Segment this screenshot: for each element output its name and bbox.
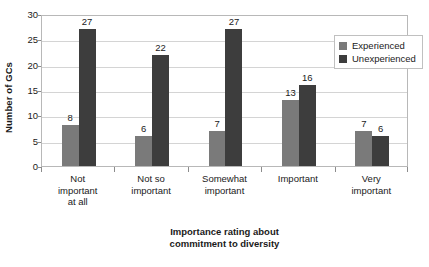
x-axis-tick-label: Important — [261, 173, 334, 185]
x-axis-tick-mark — [114, 167, 115, 172]
bar[interactable]: 7 — [209, 131, 226, 166]
y-axis-tick-label: 25 — [16, 35, 38, 45]
legend-swatch-icon — [339, 42, 347, 50]
bar[interactable]: 13 — [282, 100, 299, 166]
x-axis-tick-label-line: important — [41, 185, 114, 197]
bar-value-label: 13 — [285, 88, 296, 98]
y-axis-tick-mark — [37, 116, 41, 117]
legend-label: Unexperienced — [352, 54, 416, 64]
chart-legend: ExperiencedUnexperienced — [334, 35, 423, 69]
x-axis-tick-label-line: important — [114, 185, 187, 197]
y-axis-title: Number of GCs — [0, 44, 16, 150]
bar[interactable]: 27 — [225, 29, 242, 166]
bar[interactable]: 27 — [79, 29, 96, 166]
y-axis-tick-label: 30 — [16, 10, 38, 20]
bar-chart-figure: Number of GCs 051015202530 8276227271316… — [0, 0, 429, 267]
bar-group: 622 — [135, 16, 169, 166]
y-axis-tick-label: 20 — [16, 61, 38, 71]
bar-value-label: 27 — [82, 17, 93, 27]
bar-value-label: 6 — [141, 124, 146, 134]
y-axis-tick-label: 5 — [16, 137, 38, 147]
bar-value-label: 7 — [361, 119, 366, 129]
bar-group: 727 — [209, 16, 243, 166]
bar-value-label: 6 — [378, 124, 383, 134]
x-axis-tick-label-line: important — [335, 185, 408, 197]
x-axis-tick-label: Somewhatimportant — [188, 173, 261, 196]
legend-label: Experienced — [352, 41, 405, 51]
legend-item-experienced[interactable]: Experienced — [339, 39, 416, 52]
legend-item-unexperienced[interactable]: Unexperienced — [339, 52, 416, 65]
y-axis-tick-mark — [37, 66, 41, 67]
x-axis-tick-mark — [188, 167, 189, 172]
bar-value-label: 27 — [229, 17, 240, 27]
x-axis-title-line: commitment to diversity — [41, 238, 408, 250]
y-axis-title-text: Number of GCs — [3, 62, 14, 133]
bar[interactable]: 22 — [152, 55, 169, 166]
plot-area: 827622727131676 ExperiencedUnexperienced — [41, 15, 408, 167]
bar-value-label: 22 — [155, 43, 166, 53]
x-axis-tick-mark — [335, 167, 336, 172]
x-axis-tick-label-line: at all — [41, 196, 114, 208]
bar[interactable]: 16 — [299, 85, 316, 166]
bar[interactable]: 8 — [62, 125, 79, 166]
legend-swatch-icon — [339, 55, 347, 63]
y-axis-tick-mark — [37, 15, 41, 16]
x-axis-tick-label: Veryimportant — [335, 173, 408, 196]
x-axis-tick-label-line: Somewhat — [188, 173, 261, 185]
x-axis-tick-label-line: Very — [335, 173, 408, 185]
bar-group: 827 — [62, 16, 96, 166]
bar[interactable]: 6 — [135, 136, 152, 166]
y-axis-tick-label: 10 — [16, 111, 38, 121]
y-axis-tick-label: 0 — [16, 162, 38, 172]
x-axis-tick-label-line: important — [188, 185, 261, 197]
y-axis-tick-mark — [37, 142, 41, 143]
y-axis-tick-mark — [37, 91, 41, 92]
bar-value-label: 8 — [68, 113, 73, 123]
bar[interactable]: 7 — [355, 131, 372, 166]
x-axis-tick-label-line: Not so — [114, 173, 187, 185]
x-axis-tick-label-line: Important — [261, 173, 334, 185]
bar-group: 1316 — [282, 16, 316, 166]
x-axis-tick-label: Notimportantat all — [41, 173, 114, 208]
x-axis-tick-label-line: Not — [41, 173, 114, 185]
bar-value-label: 16 — [302, 73, 313, 83]
x-axis-tick-mark — [41, 167, 42, 172]
x-axis-tick-mark — [407, 167, 408, 172]
y-axis-tick-labels: 051015202530 — [16, 10, 40, 182]
x-axis-tick-label: Not soimportant — [114, 173, 187, 196]
bar[interactable]: 6 — [372, 136, 389, 166]
x-axis-title: Importance rating aboutcommitment to div… — [41, 226, 408, 249]
y-axis-tick-mark — [37, 40, 41, 41]
x-axis-title-line: Importance rating about — [41, 226, 408, 238]
x-axis-tick-mark — [261, 167, 262, 172]
x-axis-tick-labels: Notimportantat allNot soimportantSomewha… — [41, 173, 408, 217]
y-axis-tick-label: 15 — [16, 86, 38, 96]
bar-value-label: 7 — [214, 119, 219, 129]
